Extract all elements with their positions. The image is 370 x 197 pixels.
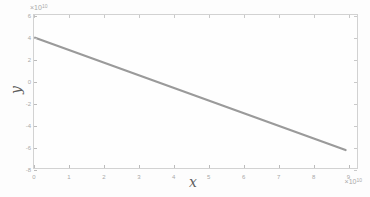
x-tick-label: 1 — [60, 173, 78, 181]
x-axis-tick — [349, 165, 350, 168]
x-axis-tick — [279, 165, 280, 168]
x-axis-tick-mirror — [104, 15, 105, 18]
x-axis-tick — [209, 165, 210, 168]
x-axis-tick — [244, 165, 245, 168]
y-axis-label: y — [8, 81, 26, 99]
matlab-figure: 01234567896420-2-4-6-8 ×1010 ×1010 x y — [0, 0, 370, 197]
y-axis-tick — [34, 170, 37, 171]
x-exponent-power: 10 — [356, 177, 362, 183]
y-axis-tick-mirror — [354, 170, 357, 171]
y-axis-tick — [34, 16, 37, 17]
y-axis-tick-mirror — [354, 60, 357, 61]
x-tick-label: 0 — [25, 173, 43, 181]
x-axis-tick-mirror — [349, 15, 350, 18]
x-tick-label: 2 — [95, 173, 113, 181]
y-axis-exponent: ×1010 — [30, 3, 47, 11]
y-axis-tick-mirror — [354, 16, 357, 17]
x-axis-tick-mirror — [69, 15, 70, 18]
y-axis-tick — [34, 104, 37, 105]
x-tick-label: 3 — [130, 173, 148, 181]
x-axis-exponent: ×1010 — [326, 177, 362, 185]
y-tick-label: -2 — [7, 101, 31, 108]
y-tick-label: -6 — [7, 145, 31, 152]
x-axis-tick-mirror — [279, 15, 280, 18]
y-exponent-base: ×10 — [30, 4, 42, 11]
y-axis-tick — [34, 38, 37, 39]
x-axis-tick-mirror — [139, 15, 140, 18]
x-tick-label: 7 — [270, 173, 288, 181]
y-tick-label: -4 — [7, 123, 31, 130]
y-tick-label: 4 — [7, 35, 31, 42]
x-axis-tick — [69, 165, 70, 168]
y-axis-tick — [34, 126, 37, 127]
y-axis-tick — [34, 148, 37, 149]
x-axis-label: x — [184, 174, 202, 190]
y-axis-tick-mirror — [354, 148, 357, 149]
x-axis-tick — [174, 165, 175, 168]
x-tick-label: 5 — [200, 173, 218, 181]
x-axis-tick-mirror — [314, 15, 315, 18]
y-axis-tick-mirror — [354, 38, 357, 39]
x-axis-tick — [314, 165, 315, 168]
x-tick-label: 4 — [165, 173, 183, 181]
plot-area: 01234567896420-2-4-6-8 — [33, 14, 358, 169]
data-line-svg — [34, 15, 357, 168]
data-line-line1 — [35, 38, 345, 150]
y-tick-label: 6 — [7, 13, 31, 20]
x-axis-tick — [34, 165, 35, 168]
x-axis-tick — [139, 165, 140, 168]
y-axis-tick — [34, 60, 37, 61]
x-tick-label: 6 — [235, 173, 253, 181]
y-exponent-power: 10 — [42, 3, 48, 9]
x-axis-tick — [104, 165, 105, 168]
y-tick-label: -8 — [7, 167, 31, 174]
y-tick-label: 2 — [7, 57, 31, 64]
x-exponent-base: ×10 — [345, 178, 357, 185]
x-axis-tick-mirror — [174, 15, 175, 18]
y-axis-tick — [34, 82, 37, 83]
x-axis-tick-mirror — [209, 15, 210, 18]
y-axis-tick-mirror — [354, 126, 357, 127]
x-tick-label: 8 — [305, 173, 323, 181]
y-axis-tick-mirror — [354, 82, 357, 83]
x-axis-tick-mirror — [244, 15, 245, 18]
y-axis-tick-mirror — [354, 104, 357, 105]
